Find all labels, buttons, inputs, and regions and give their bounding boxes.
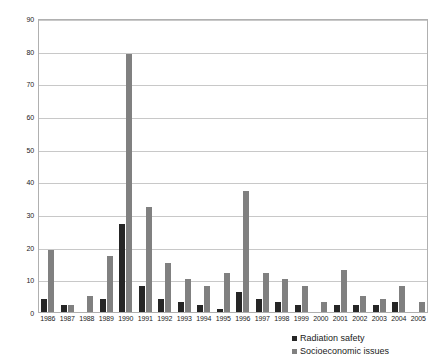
bar [41, 299, 47, 312]
bar [217, 309, 223, 312]
bar [243, 191, 249, 312]
bar [380, 299, 386, 312]
bar-chart: 0102030405060708090 19861987198819891990… [0, 0, 446, 361]
bar [204, 286, 210, 312]
y-tick-label: 30 [8, 212, 34, 219]
bar [48, 250, 54, 312]
bar-group [117, 20, 137, 312]
legend-item[interactable]: Radiation safety [292, 332, 389, 344]
bar [126, 54, 132, 312]
bar [139, 286, 145, 312]
bar [87, 296, 93, 312]
bar [399, 286, 405, 312]
bar [236, 292, 242, 312]
bar [373, 305, 379, 312]
plot-area [38, 19, 428, 313]
y-tick-label: 60 [8, 114, 34, 121]
bar [107, 256, 113, 312]
bar-group [371, 20, 391, 312]
bar [100, 299, 106, 312]
bar [263, 273, 269, 312]
y-tick-label: 0 [8, 310, 34, 317]
bar [321, 302, 327, 312]
bar-group [156, 20, 176, 312]
bar [185, 279, 191, 312]
bar-group [39, 20, 59, 312]
y-tick-label: 40 [8, 179, 34, 186]
y-tick-label: 50 [8, 147, 34, 154]
bar [282, 279, 288, 312]
bar [119, 224, 125, 312]
bar [61, 305, 67, 312]
bar [158, 299, 164, 312]
y-tick-label: 10 [8, 277, 34, 284]
bar-group [390, 20, 410, 312]
legend-label: Radiation safety [300, 333, 365, 343]
bar [341, 270, 347, 312]
bar-group [137, 20, 157, 312]
bar [353, 305, 359, 312]
bar [419, 302, 425, 312]
square-marker-icon [292, 349, 297, 354]
bar [302, 286, 308, 312]
bar-group [98, 20, 118, 312]
bar [68, 305, 74, 312]
bar-group [351, 20, 371, 312]
bar [224, 273, 230, 312]
bar [295, 305, 301, 312]
bar-group [293, 20, 313, 312]
y-tick-label: 20 [8, 245, 34, 252]
y-tick-label: 70 [8, 81, 34, 88]
bar-group [234, 20, 254, 312]
bar [256, 299, 262, 312]
bar-group [195, 20, 215, 312]
bar-group [254, 20, 274, 312]
x-axis: 1986198719881989199019911992199319941995… [38, 315, 428, 327]
x-tick-label: 2005 [404, 315, 432, 323]
bar [197, 305, 203, 312]
bar [275, 302, 281, 312]
bar-group [312, 20, 332, 312]
bar-group [176, 20, 196, 312]
square-marker-icon [292, 336, 297, 341]
bar-group [78, 20, 98, 312]
bar-group [59, 20, 79, 312]
bar-group [273, 20, 293, 312]
bar [334, 305, 340, 312]
bar-group [215, 20, 235, 312]
bar-group [332, 20, 352, 312]
y-tick-label: 80 [8, 49, 34, 56]
bars-layer [39, 20, 427, 312]
legend-item[interactable]: Socioeconomic issues [292, 345, 389, 357]
legend-label: Socioeconomic issues [300, 346, 389, 356]
bar [178, 302, 184, 312]
y-tick-label: 90 [8, 16, 34, 23]
bar [360, 296, 366, 312]
bar [392, 302, 398, 312]
bar [165, 263, 171, 312]
chart-legend: Radiation safetySocioeconomic issues [292, 332, 389, 358]
bar [146, 207, 152, 312]
bar-group [410, 20, 430, 312]
